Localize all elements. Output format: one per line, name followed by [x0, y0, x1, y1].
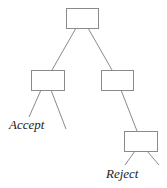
reject-label: Reject [105, 166, 139, 181]
edge-left-accept [29, 90, 41, 117]
bottom-node [125, 132, 158, 152]
right-node [102, 71, 134, 91]
edge-bottom-right-leaf [147, 151, 159, 165]
edge-left-right-leaf [51, 90, 66, 129]
edge-bottom-reject [125, 151, 135, 165]
edge-root-right [88, 28, 112, 70]
root-node [67, 9, 99, 29]
edge-right-bottom [121, 90, 137, 131]
left-node [32, 71, 65, 91]
accept-label: Accept [8, 117, 45, 132]
tree-diagram: Accept Reject [0, 0, 167, 188]
edge-root-left [52, 28, 76, 70]
